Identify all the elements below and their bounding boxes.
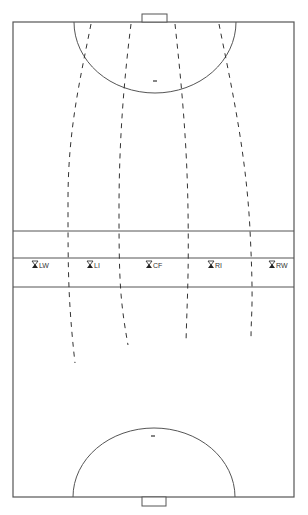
- run-2: [119, 24, 131, 345]
- player-cf: CF: [146, 261, 162, 269]
- goals: [142, 14, 167, 506]
- player-marker-icon: [87, 264, 93, 268]
- player-label: CF: [153, 262, 162, 269]
- player-marker-icon: [32, 264, 38, 268]
- player-lw: LW: [32, 261, 49, 269]
- player-marker-icon: [146, 264, 152, 268]
- run-4: [219, 24, 252, 340]
- bottom-goal: [142, 497, 166, 506]
- player-label: RW: [276, 262, 288, 269]
- bottom-arc: [73, 428, 235, 497]
- player-marker-icon: [208, 264, 214, 268]
- court-lines: [13, 231, 294, 287]
- player-ri: RI: [208, 261, 222, 269]
- player-label: LW: [39, 262, 49, 269]
- top-goal: [142, 14, 167, 22]
- goal-areas: [73, 22, 236, 497]
- player-label: RI: [215, 262, 222, 269]
- run-3: [175, 24, 188, 343]
- handball-court-diagram: LWLICFRIRW: [0, 0, 308, 515]
- player-label: LI: [94, 262, 100, 269]
- run-1: [68, 24, 91, 363]
- player-rw: RW: [269, 261, 288, 269]
- player-marker-icon: [269, 264, 275, 268]
- player-run-paths: [68, 24, 252, 363]
- player-li: LI: [87, 261, 100, 269]
- players: LWLICFRIRW: [32, 261, 288, 269]
- top-arc: [74, 22, 236, 93]
